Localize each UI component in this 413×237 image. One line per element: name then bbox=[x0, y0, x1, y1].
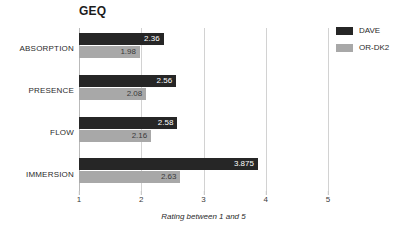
bar: 2.58 bbox=[79, 117, 177, 129]
category-label-absorption: ABSORPTION bbox=[20, 28, 74, 70]
x-tick-mark bbox=[79, 191, 80, 195]
bar: 3.875 bbox=[79, 158, 258, 170]
x-tick-mark bbox=[328, 191, 329, 195]
bar: 1.98 bbox=[79, 46, 140, 58]
bar-value-label: 2.56 bbox=[157, 77, 173, 85]
x-tick-mark bbox=[203, 191, 204, 195]
bar-value-label: 2.36 bbox=[144, 35, 160, 43]
x-tick-mark bbox=[266, 191, 267, 195]
x-tick-label-5: 5 bbox=[326, 195, 330, 204]
legend: DAVEOR-DK2 bbox=[336, 24, 389, 58]
bar: 2.08 bbox=[79, 88, 146, 100]
legend-swatch-icon bbox=[336, 27, 353, 35]
category-label-immersion: IMMERSION bbox=[26, 153, 74, 195]
gridline-5 bbox=[328, 28, 329, 195]
x-tick-label-4: 4 bbox=[264, 195, 268, 204]
bar: 2.63 bbox=[79, 171, 180, 183]
category-label-flow: FLOW bbox=[50, 112, 74, 154]
category-label-presence: PRESENCE bbox=[28, 70, 74, 112]
bar-rows: 2.361.982.562.082.582.163.8752.63 bbox=[79, 28, 328, 195]
bar-group: 3.8752.63 bbox=[79, 153, 328, 195]
plot-area: 2.361.982.562.082.582.163.8752.63 bbox=[79, 28, 328, 195]
bar-value-label: 2.16 bbox=[132, 132, 148, 140]
bar: 2.36 bbox=[79, 33, 164, 45]
x-tick-mark bbox=[141, 191, 142, 195]
category-axis-labels: ABSORPTIONPRESENCEFLOWIMMERSION bbox=[0, 28, 76, 195]
x-tick-label-2: 2 bbox=[139, 195, 143, 204]
legend-item-or-dk2[interactable]: OR-DK2 bbox=[336, 41, 389, 54]
bar-value-label: 2.08 bbox=[127, 90, 143, 98]
bar-value-label: 1.98 bbox=[120, 48, 136, 56]
legend-swatch-icon bbox=[336, 44, 353, 52]
bar: 2.56 bbox=[79, 75, 176, 87]
geq-bar-chart: GEQ ABSORPTIONPRESENCEFLOWIMMERSION 2.36… bbox=[0, 0, 413, 237]
legend-item-dave[interactable]: DAVE bbox=[336, 24, 389, 37]
bar-value-label: 2.58 bbox=[158, 119, 174, 127]
x-tick-label-1: 1 bbox=[77, 195, 81, 204]
bar-group: 2.361.98 bbox=[79, 28, 328, 70]
bar-group: 2.562.08 bbox=[79, 70, 328, 112]
legend-label: DAVE bbox=[359, 26, 380, 35]
x-tick-label-3: 3 bbox=[201, 195, 205, 204]
bar-group: 2.582.16 bbox=[79, 112, 328, 154]
bar-value-label: 3.875 bbox=[234, 160, 254, 168]
bar-value-label: 2.63 bbox=[161, 173, 177, 181]
x-axis-title: Rating between 1 and 5 bbox=[79, 212, 328, 221]
bar: 2.16 bbox=[79, 130, 151, 142]
legend-label: OR-DK2 bbox=[359, 43, 389, 52]
x-axis-ticks: 12345 bbox=[79, 195, 328, 209]
chart-title: GEQ bbox=[79, 4, 106, 18]
